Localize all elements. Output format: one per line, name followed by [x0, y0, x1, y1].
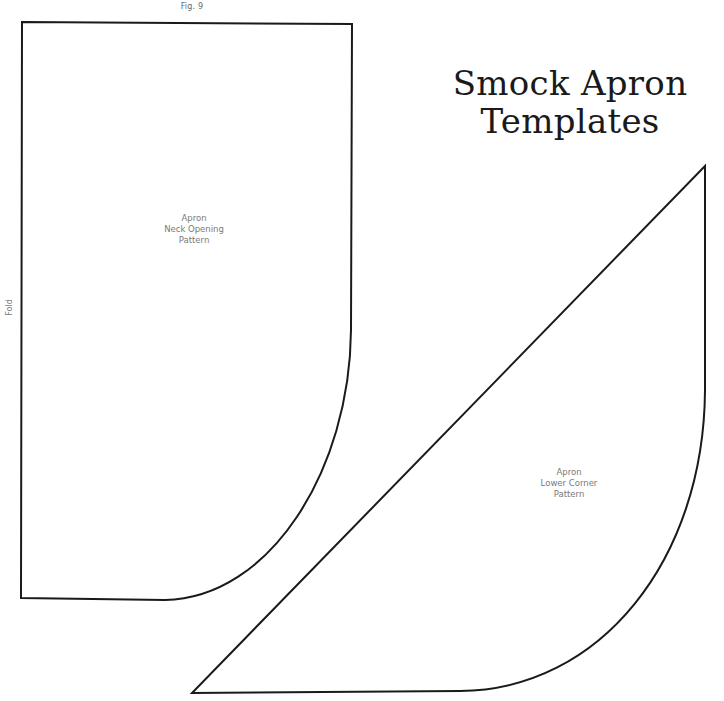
corner-label-line-2: Lower Corner [514, 478, 624, 489]
lower-corner-label: Apron Lower Corner Pattern [514, 467, 624, 500]
neck-opening-label: Apron Neck Opening Pattern [139, 213, 249, 246]
corner-label-line-1: Apron [514, 467, 624, 478]
page-title: Smock Apron Templates [420, 64, 720, 140]
pattern-sheet: Fig. 9 Smock Apron Templates Apron Neck … [0, 0, 724, 701]
title-line-1: Smock Apron [420, 64, 720, 102]
neck-opening-outline [21, 22, 352, 600]
title-line-2: Templates [420, 102, 720, 140]
neck-label-line-3: Pattern [139, 235, 249, 246]
neck-label-line-1: Apron [139, 213, 249, 224]
corner-label-line-3: Pattern [514, 489, 624, 500]
lower-corner-outline [192, 166, 705, 693]
fold-label: Fold [5, 293, 14, 323]
neck-label-line-2: Neck Opening [139, 224, 249, 235]
